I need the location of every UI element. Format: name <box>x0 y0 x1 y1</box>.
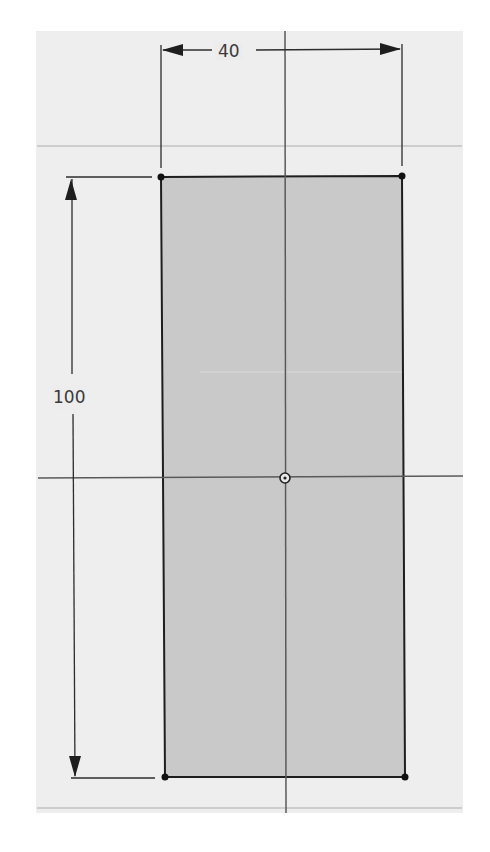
arrowhead-left-icon <box>162 44 183 56</box>
arrowhead-up-icon <box>65 179 77 200</box>
sketch-drawing <box>0 0 490 852</box>
width-dimension-value[interactable]: 40 <box>215 43 243 60</box>
corner-point-bottom-right[interactable] <box>402 774 409 781</box>
arrowhead-right-icon <box>380 43 401 55</box>
origin-point-icon[interactable] <box>280 473 290 483</box>
corner-point-top-right[interactable] <box>399 173 406 180</box>
corner-point-top-left[interactable] <box>158 174 165 181</box>
vertical-axis <box>285 31 286 813</box>
dimension-line-right-segment <box>256 49 400 50</box>
width-dimension[interactable] <box>161 43 402 168</box>
sketch-viewport[interactable]: 40 100 <box>0 0 490 852</box>
dimension-line-bottom-segment <box>73 414 75 776</box>
height-dimension-value[interactable]: 100 <box>52 385 86 410</box>
corner-point-bottom-left[interactable] <box>162 774 169 781</box>
arrowhead-down-icon <box>69 756 81 777</box>
